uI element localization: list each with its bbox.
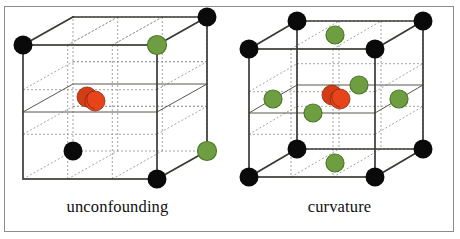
vertex-back-top-left: [288, 12, 307, 31]
caption-curvature: curvature: [227, 197, 452, 217]
top-cropped-text-artifact: · · · · · · ·: [5, 0, 455, 3]
panel-unconfounding: unconfounding: [5, 7, 230, 231]
figure-frame: unconfounding: [4, 6, 454, 232]
cube-edges-unconfounding: [23, 17, 207, 179]
vertex-front-bottom-right: [148, 170, 167, 189]
cube-vertices-unconfounding: [14, 8, 217, 189]
cube-diagram-unconfounding: [5, 7, 230, 197]
vertex-back-bottom-right: [198, 142, 217, 161]
cube-diagram-curvature: [227, 7, 452, 197]
face-center-left: [264, 90, 282, 108]
top-artifact-text: · · · · · · ·: [5, 0, 455, 3]
vertex-front-bottom-right: [366, 168, 385, 187]
face-center-back: [350, 76, 368, 94]
vertex-front-top-right: [366, 40, 385, 59]
caption-unconfounding: unconfounding: [5, 197, 230, 217]
center-point-curvature: [322, 85, 350, 109]
vertex-back-bottom-left: [288, 140, 307, 159]
face-center-front: [304, 104, 322, 122]
vertex-front-top-right: [148, 36, 167, 55]
face-center-top: [326, 26, 344, 44]
vertex-back-bottom-left: [64, 142, 83, 161]
cube-grid-dashed-unconfounding: [23, 17, 207, 179]
panel-curvature: curvature: [227, 7, 452, 231]
vertex-back-bottom-right: [414, 140, 433, 159]
vertex-front-top-left: [240, 40, 259, 59]
face-center-right: [390, 90, 408, 108]
vertex-back-top-right: [414, 12, 433, 31]
center-point-unconfounding: [77, 87, 105, 111]
vertex-front-bottom-left: [240, 168, 259, 187]
cube-midplane-unconfounding: [23, 84, 207, 112]
vertex-back-top-right: [198, 8, 217, 27]
vertex-front-top-left: [14, 36, 33, 55]
face-center-bottom: [326, 154, 344, 172]
